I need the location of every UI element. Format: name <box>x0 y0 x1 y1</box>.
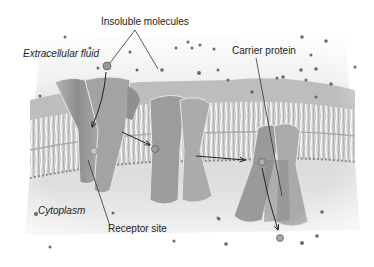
label-insoluble-molecules: Insoluble molecules <box>101 16 189 28</box>
membrane-transport-diagram: Insoluble molecules Extracellular fluid … <box>0 0 374 267</box>
label-extracellular-fluid: Extracellular fluid <box>23 48 99 60</box>
transported-molecule-2 <box>152 146 159 153</box>
label-receptor-site: Receptor site <box>108 223 167 235</box>
receptor-molecule <box>91 148 98 155</box>
label-cytoplasm: Cytoplasm <box>38 205 85 217</box>
transported-molecule-3 <box>259 159 266 166</box>
released-molecule <box>277 235 284 242</box>
transported-molecule-1 <box>103 62 111 70</box>
label-carrier-protein: Carrier protein <box>232 45 296 57</box>
diagram-illustration <box>0 0 374 267</box>
